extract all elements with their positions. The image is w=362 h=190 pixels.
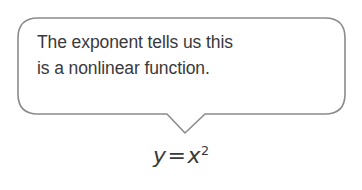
equation-base: x xyxy=(187,143,201,168)
equation-operator: = xyxy=(166,143,187,168)
equation-label: y=x2 xyxy=(0,142,362,170)
callout-text: The exponent tells us this is a nonlinea… xyxy=(37,29,327,81)
figure-canvas: The exponent tells us this is a nonlinea… xyxy=(0,0,362,190)
equation-exponent: 2 xyxy=(201,143,209,158)
equation-left-side: y xyxy=(153,143,167,168)
